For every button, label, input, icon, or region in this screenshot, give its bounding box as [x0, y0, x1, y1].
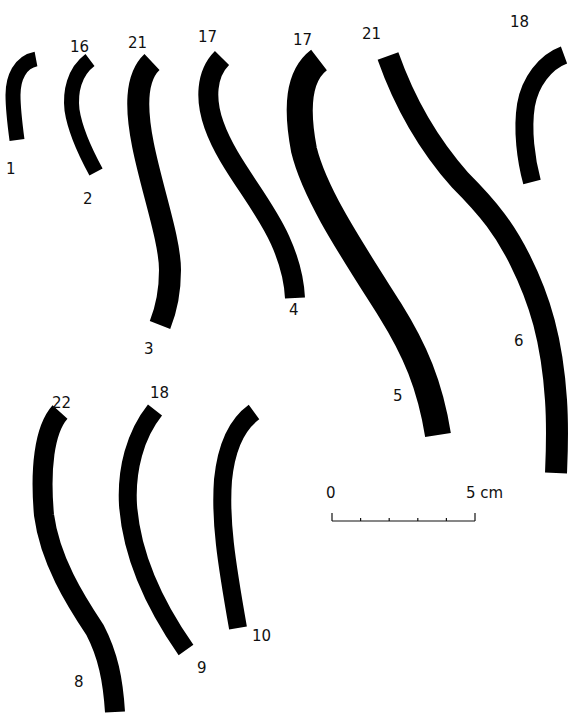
top-value-8: 22 — [52, 396, 71, 411]
top-value-4: 17 — [198, 30, 217, 45]
top-value-7: 18 — [510, 15, 529, 30]
profile-8 — [43, 412, 115, 712]
profile-9 — [128, 410, 186, 650]
object-label-6: 6 — [514, 334, 524, 349]
scale-end-label: 5 cm — [466, 486, 503, 501]
top-value-6: 21 — [362, 27, 381, 42]
profile-7 — [524, 55, 564, 182]
profile-10 — [222, 412, 254, 628]
top-value-3: 21 — [128, 36, 147, 51]
object-label-5: 5 — [393, 389, 403, 404]
profile-4 — [208, 58, 295, 298]
figure: 16 21 17 17 21 18 22 18 1 2 3 4 5 6 8 9 … — [0, 0, 575, 717]
object-label-3: 3 — [144, 342, 154, 357]
object-label-10: 10 — [252, 629, 271, 644]
profile-1 — [13, 59, 36, 140]
object-label-1: 1 — [6, 162, 16, 177]
scale-bar-line — [332, 513, 475, 521]
object-label-8: 8 — [74, 675, 84, 690]
top-value-9: 18 — [150, 386, 169, 401]
scale-start-label: 0 — [326, 486, 336, 501]
profile-3 — [138, 62, 170, 325]
object-label-2: 2 — [83, 192, 93, 207]
top-value-5: 17 — [293, 33, 312, 48]
profile-2 — [72, 60, 96, 172]
object-label-4: 4 — [289, 303, 299, 318]
object-label-9: 9 — [197, 661, 207, 676]
top-value-2: 16 — [70, 40, 89, 55]
object-profiles — [0, 0, 575, 717]
